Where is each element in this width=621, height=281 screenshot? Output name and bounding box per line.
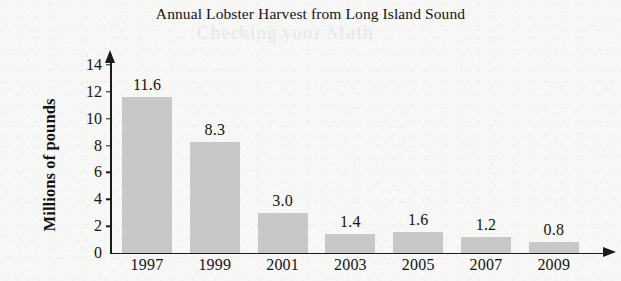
x-axis-tick-label: 2005 bbox=[381, 256, 455, 274]
y-axis-tick-label: 2 bbox=[0, 217, 108, 235]
y-axis-tick-label: 6 bbox=[0, 163, 108, 181]
bar bbox=[258, 213, 308, 253]
x-axis-tick-label: 2003 bbox=[313, 256, 387, 274]
y-axis-tick-label: 10 bbox=[0, 110, 108, 128]
x-axis-arrow-icon bbox=[603, 247, 616, 257]
y-axis-tick-mark bbox=[106, 64, 111, 65]
x-axis-tick-label: 2001 bbox=[246, 256, 320, 274]
y-axis-tick-label: 8 bbox=[0, 137, 108, 155]
bar-value-label: 0.8 bbox=[517, 221, 591, 239]
y-axis-tick-label: 14 bbox=[0, 56, 108, 74]
bar bbox=[325, 234, 375, 253]
x-axis-tick-label: 1999 bbox=[178, 256, 252, 274]
y-axis-tick-label: 0 bbox=[0, 244, 108, 262]
bar bbox=[529, 242, 579, 253]
bar bbox=[393, 232, 443, 253]
bar-value-label: 8.3 bbox=[178, 121, 252, 139]
y-axis-tick-mark bbox=[106, 118, 111, 119]
x-axis-tick-label: 2009 bbox=[517, 256, 591, 274]
bar bbox=[461, 237, 511, 253]
bar-value-label: 1.2 bbox=[449, 216, 523, 234]
bar-value-label: 1.6 bbox=[381, 211, 455, 229]
plot-area: Millions of pounds 02468101214 11.68.33.… bbox=[0, 0, 621, 281]
bar-value-label: 11.6 bbox=[110, 76, 184, 94]
y-axis-tick-mark bbox=[106, 145, 111, 146]
bar-value-label: 1.4 bbox=[313, 213, 387, 231]
bar bbox=[122, 97, 172, 253]
y-axis-tick-label: 4 bbox=[0, 190, 108, 208]
bar-chart: Checking your Math Annual Lobster Harves… bbox=[0, 0, 621, 281]
y-axis-tick-label: 12 bbox=[0, 83, 108, 101]
y-axis-tick-mark bbox=[106, 172, 111, 173]
bar bbox=[190, 142, 240, 253]
x-axis-tick-label: 2007 bbox=[449, 256, 523, 274]
y-axis-tick-mark bbox=[106, 225, 111, 226]
x-axis-tick-label: 1997 bbox=[110, 256, 184, 274]
bar-value-label: 3.0 bbox=[246, 192, 320, 210]
y-axis-tick-mark bbox=[106, 199, 111, 200]
